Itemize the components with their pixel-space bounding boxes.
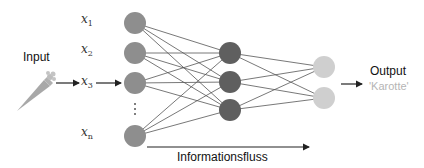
hidden-node-1 [219,42,241,64]
neural-network-diagram [0,0,424,168]
input-layer [124,12,146,147]
edges-input-hidden [135,23,230,136]
x3-label: x3 [81,74,93,90]
ellipsis-dots [134,103,136,115]
input-node-2 [124,42,146,64]
output-node-2 [313,87,335,109]
input-node-n [124,125,146,147]
input-label: Input [23,50,50,64]
edges-hidden-output [230,53,324,110]
hidden-node-3 [219,99,241,121]
xn-label: xn [81,125,93,141]
output-label: Output [370,64,406,78]
input-node-1 [124,12,146,34]
output-node-1 [313,56,335,78]
x1-label: x1 [81,12,93,28]
output-layer [313,56,335,109]
output-value: 'Karotte' [369,80,409,92]
input-node-3 [124,72,146,94]
hidden-layer [219,42,241,121]
carrot-icon [17,71,56,111]
x2-label: x2 [81,42,93,58]
flow-label: Informationsfluss [177,150,268,164]
hidden-node-2 [219,71,241,93]
